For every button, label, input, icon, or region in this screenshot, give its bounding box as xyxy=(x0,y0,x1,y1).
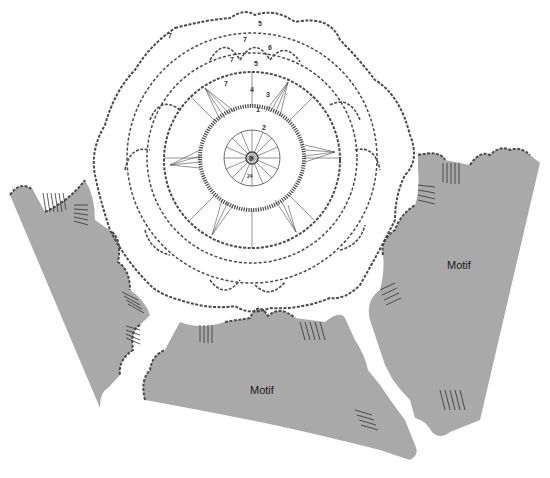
row-label: 7 xyxy=(230,56,234,63)
motif-left xyxy=(10,180,150,408)
row-label: 3 xyxy=(266,91,270,98)
crochet-diagram: 7 5 6 7 7 5 7 4 3 2 1 0 24 xyxy=(0,0,550,478)
center-doily xyxy=(94,12,414,311)
row-label: 24 xyxy=(247,173,253,179)
row-label: 2 xyxy=(262,124,266,131)
row-label: 5 xyxy=(254,60,258,67)
row-label: 7 xyxy=(243,36,247,43)
row-label: 7 xyxy=(224,80,228,87)
motif-right xyxy=(369,148,540,436)
motif-label-bottom: Motif xyxy=(250,384,274,396)
row-label: 7 xyxy=(168,32,172,39)
row-label: 6 xyxy=(268,44,272,51)
row-label: 5 xyxy=(258,20,262,27)
row-label: 1 xyxy=(256,106,260,113)
row-labels: 7 5 6 7 7 5 7 4 3 2 1 0 24 xyxy=(168,20,272,179)
center-ring-label: 0 xyxy=(249,155,253,162)
motif-label-right: Motif xyxy=(447,259,471,271)
row-label: 4 xyxy=(250,86,254,93)
